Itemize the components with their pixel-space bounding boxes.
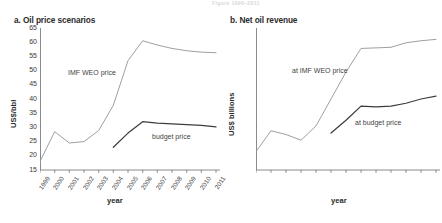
panel-b-x-axis-label: year: [331, 196, 347, 205]
x-axis-tick-label: 1999: [37, 175, 51, 191]
x-axis-tick-label: 2002: [81, 175, 95, 191]
y-axis-tick-label: 15: [24, 166, 37, 173]
data-series-line: [40, 41, 216, 162]
data-series-line: [331, 96, 436, 133]
panel-a-plot-area: [40, 28, 216, 170]
y-axis-tick-label: 60: [24, 38, 37, 45]
y-axis-tick-label: 20: [24, 151, 37, 158]
panel-oil-price-scenarios: a. Oil price scenarios US$/bbl year 1520…: [0, 0, 221, 223]
y-axis-tick-label: 35: [24, 109, 37, 116]
panel-a-y-axis-label: US$/bbl: [9, 100, 18, 128]
series-label-imf-weo-price-a: IMF WEO price: [68, 69, 116, 76]
series-label-budget-price-b: at budget price: [355, 119, 401, 126]
x-axis-tick-label: 2004: [110, 175, 124, 191]
panel-b-plot-area: [256, 28, 436, 170]
panel-a-x-axis-label: year: [107, 196, 123, 205]
x-axis-tick-label: 2006: [139, 175, 153, 191]
series-label-budget-price-a: budget price: [152, 133, 191, 140]
axis-lines: [41, 28, 221, 170]
chart-svg: [40, 28, 222, 173]
chart-svg: [256, 28, 442, 173]
y-axis-tick-label: 40: [24, 95, 37, 102]
x-axis-tick-label: 2001: [66, 175, 80, 191]
y-axis-tick-label: 50: [24, 66, 37, 73]
y-axis-tick-label: 25: [24, 137, 37, 144]
x-axis-tick-label: 2005: [125, 175, 139, 191]
axis-lines: [257, 28, 441, 170]
x-axis-tick-label: 2003: [95, 175, 109, 191]
x-axis-tick-label: 2009: [183, 175, 197, 191]
x-axis-tick-label: 2007: [154, 175, 168, 191]
x-axis-tick-label: 2008: [169, 175, 183, 191]
y-axis-tick-label: 65: [24, 24, 37, 31]
x-axis-tick-label: 2010: [198, 175, 212, 191]
figure-container: Figure 1999–2011 a. Oil price scenarios …: [0, 0, 442, 223]
y-axis-tick-label: 45: [24, 80, 37, 87]
panel-b-title: b. Net oil revenue: [230, 15, 297, 25]
data-series-line: [256, 39, 436, 151]
panel-net-oil-revenue: b. Net oil revenue US$ billions year 051…: [221, 0, 442, 223]
y-axis-tick-label: 55: [24, 52, 37, 59]
panel-b-y-axis-label: US$ billions: [227, 93, 236, 136]
y-axis-tick-label: 30: [24, 123, 37, 130]
x-axis-tick-label: 2000: [51, 175, 65, 191]
series-label-imf-weo-price-b: at IMF WEO price: [292, 67, 348, 74]
